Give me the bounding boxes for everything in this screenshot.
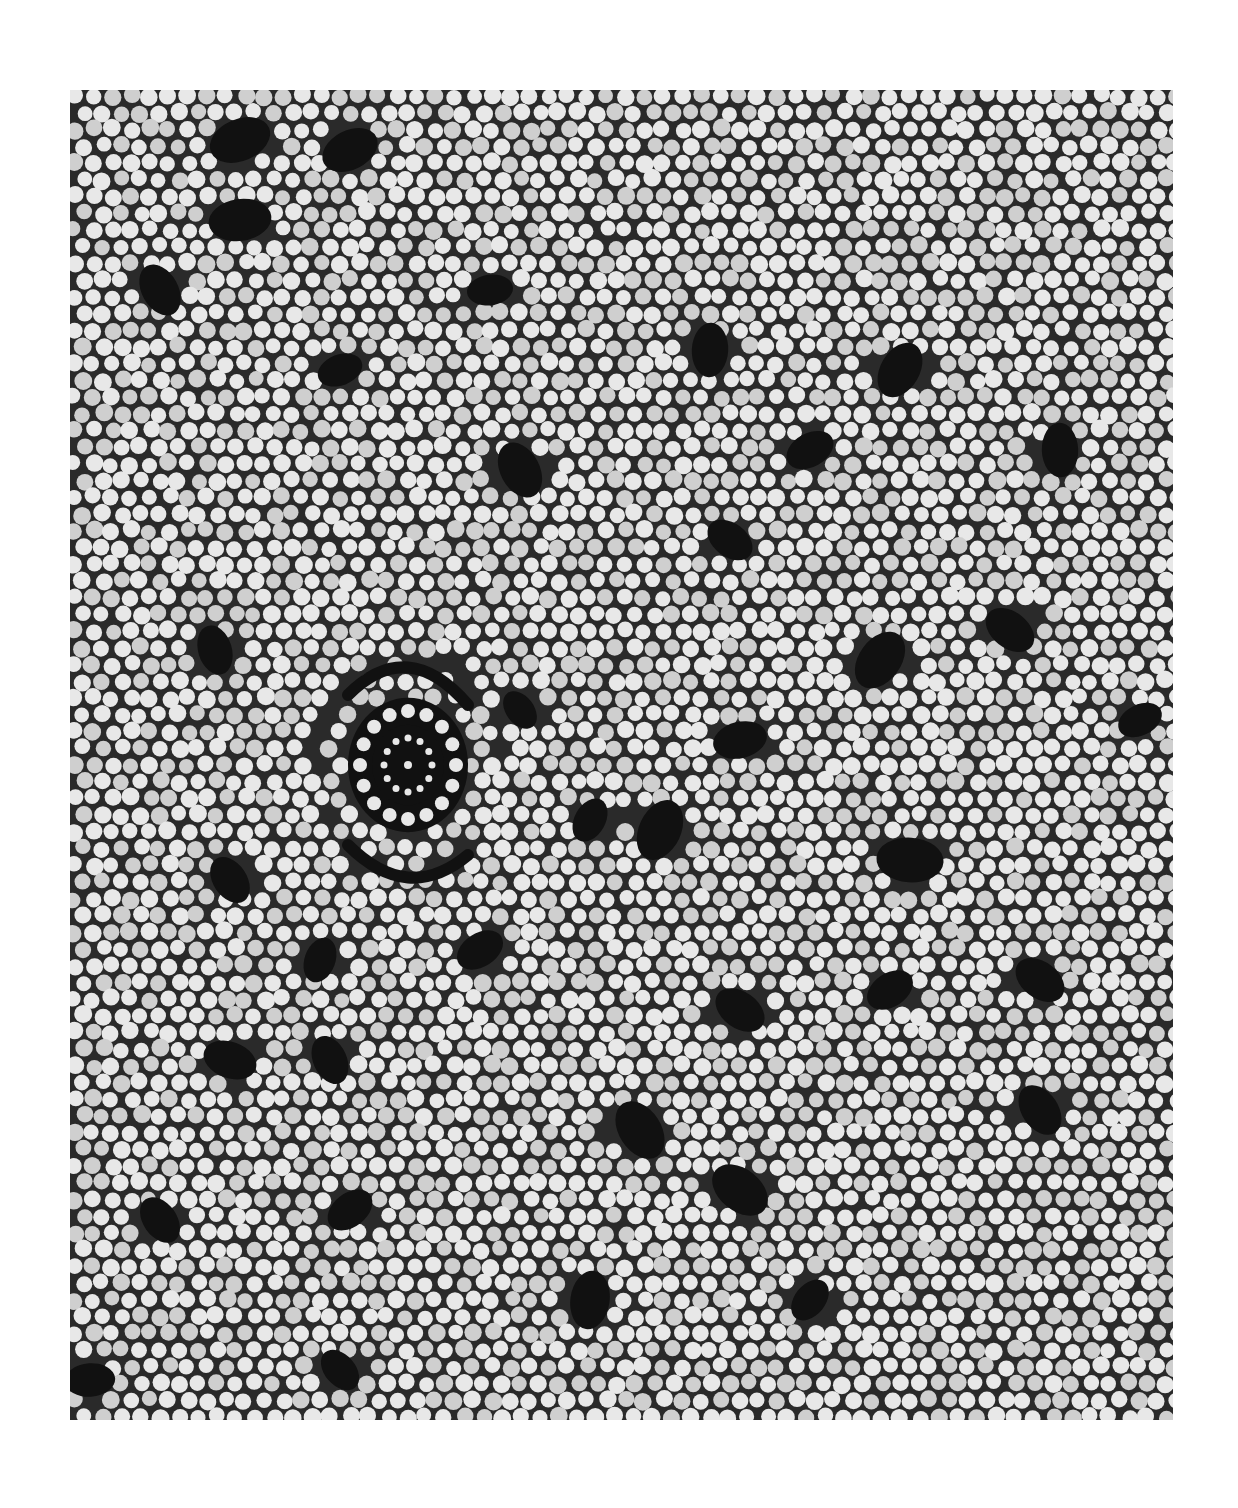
dot-painting-artwork (70, 90, 1173, 1420)
artwork-canvas (70, 90, 1173, 1420)
